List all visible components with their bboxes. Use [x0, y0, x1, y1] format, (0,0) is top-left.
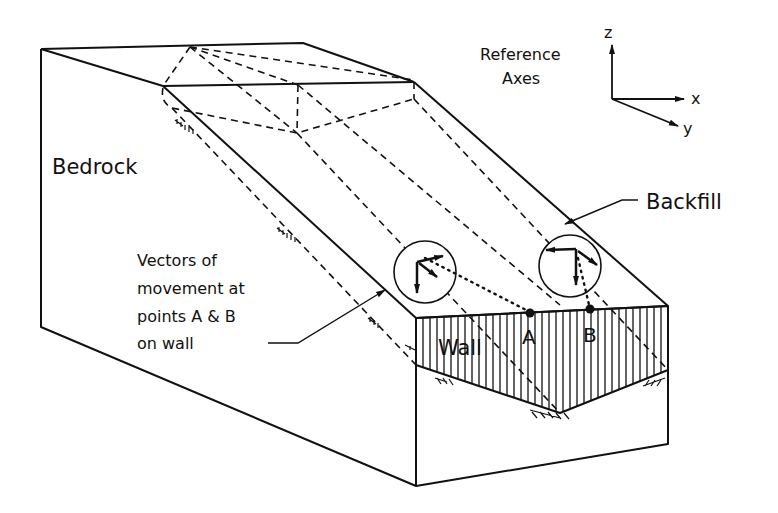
- reference-axes-icon: [612, 45, 684, 126]
- point-b-marker: [586, 305, 595, 314]
- bedrock-label: Bedrock: [52, 155, 137, 179]
- vectors-caption-line3: points A & B: [137, 306, 236, 327]
- axis-z-label: z: [604, 22, 612, 43]
- vector-circle-a: [394, 241, 456, 303]
- axis-y-label: y: [683, 118, 692, 139]
- backfill-label: Backfill: [646, 190, 722, 214]
- point-b-label: B: [583, 323, 597, 347]
- block-diagram: [0, 0, 778, 513]
- point-a-label: A: [522, 325, 536, 349]
- vectors-caption-line1: Vectors of: [137, 250, 217, 271]
- reference-axes-label-line2: Axes: [502, 68, 540, 89]
- vector-circle-b: [539, 235, 601, 297]
- diagram-canvas: Bedrock Backfill Wall A B Reference Axes…: [0, 0, 778, 513]
- point-a-marker: [526, 309, 535, 318]
- wall-label: Wall: [438, 336, 482, 360]
- reference-axes-label-line1: Reference: [480, 44, 561, 65]
- axis-x-label: x: [691, 88, 700, 109]
- vectors-caption-line4: on wall: [137, 333, 194, 354]
- vectors-caption-line2: movement at: [137, 278, 245, 299]
